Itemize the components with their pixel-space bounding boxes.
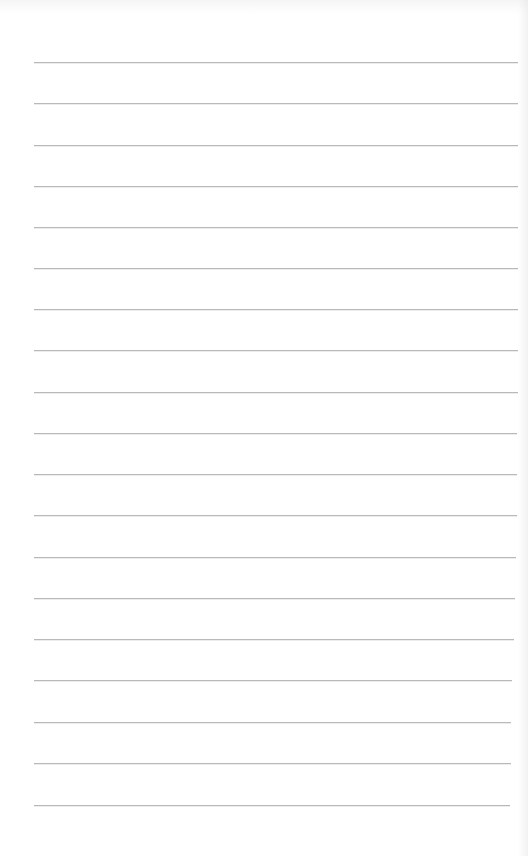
ruled-line [34, 433, 517, 434]
ruled-line [34, 763, 511, 764]
ruled-line [34, 639, 514, 640]
ruled-line [34, 309, 518, 310]
ruled-line [34, 557, 516, 558]
ruled-line [34, 103, 518, 104]
ruled-line [34, 268, 518, 269]
ruled-line [34, 392, 518, 393]
ruled-line [34, 62, 518, 63]
show-through-bleed [0, 0, 528, 14]
ruled-line [34, 598, 515, 599]
ruled-line [34, 680, 512, 681]
ruled-line [34, 474, 517, 475]
ruled-page [0, 0, 528, 856]
ruled-line [34, 350, 518, 351]
ruled-line [34, 515, 517, 516]
ruled-line [34, 722, 511, 723]
page-edge-shadow [518, 0, 528, 856]
ruled-line [34, 227, 518, 228]
ruled-line [34, 145, 518, 146]
ruled-line [34, 186, 518, 187]
ruled-line [34, 805, 510, 806]
